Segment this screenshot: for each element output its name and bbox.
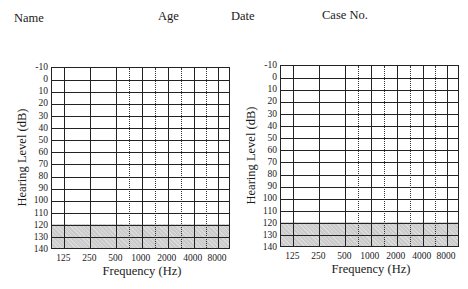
y-tick-label: 130 [251, 230, 277, 240]
grid-hline [52, 213, 229, 214]
grid-vline [142, 68, 143, 248]
grid-vline [447, 66, 448, 246]
x-axis-title: Frequency (Hz) [72, 264, 212, 279]
grid-vline [64, 68, 65, 248]
grid-vline [371, 66, 372, 246]
grid-vline-dotted [410, 66, 411, 246]
grid-hline [52, 237, 229, 238]
y-tick-label: 120 [251, 218, 277, 228]
case-number-label: Case No. [322, 8, 368, 23]
grid-vline [90, 68, 91, 248]
y-axis-title: Hearing Level (dB) [244, 96, 259, 216]
x-tick-label: 8000 [429, 251, 463, 261]
x-axis-title: Frequency (Hz) [301, 262, 441, 277]
grid-hline [52, 104, 229, 105]
grid-vline [116, 68, 117, 248]
audiogram-grid[interactable] [51, 67, 230, 249]
grid-hline [281, 187, 458, 188]
grid-hline [281, 90, 458, 91]
grid-vline-dotted [384, 66, 385, 246]
y-tick-label: 0 [251, 72, 277, 82]
grid-vline [397, 66, 398, 246]
grid-vline-dotted [358, 66, 359, 246]
grid-vline [168, 68, 169, 248]
grid-vline-dotted [181, 68, 182, 248]
y-tick-label: -10 [251, 60, 277, 70]
y-tick-label: 10 [251, 84, 277, 94]
grid-vline-dotted [155, 68, 156, 248]
grid-hline [52, 189, 229, 190]
grid-hline [52, 140, 229, 141]
grid-hline [52, 152, 229, 153]
grid-vline [194, 68, 195, 248]
date-label: Date [231, 9, 255, 24]
grid-hline [281, 235, 458, 236]
grid-hline [281, 162, 458, 163]
grid-hline [281, 138, 458, 139]
grid-hline [281, 199, 458, 200]
shaded-region [281, 222, 458, 246]
grid-vline [218, 68, 219, 248]
grid-hline [281, 211, 458, 212]
grid-vline [423, 66, 424, 246]
grid-hline [52, 201, 229, 202]
shaded-region [52, 224, 229, 248]
y-tick-label: 140 [251, 242, 277, 252]
name-label: Name [14, 11, 44, 26]
y-tick-label: 10 [22, 86, 48, 96]
grid-hline [52, 164, 229, 165]
grid-vline-dotted [435, 66, 436, 246]
grid-hline [52, 116, 229, 117]
y-tick-label: 0 [22, 74, 48, 84]
y-tick-label: 120 [22, 220, 48, 230]
grid-vline [319, 66, 320, 246]
grid-hline [281, 78, 458, 79]
grid-hline [52, 225, 229, 226]
grid-hline [281, 223, 458, 224]
grid-hline [52, 80, 229, 81]
grid-hline [281, 102, 458, 103]
grid-hline [281, 150, 458, 151]
grid-vline [293, 66, 294, 246]
grid-hline [52, 177, 229, 178]
grid-hline [281, 114, 458, 115]
x-tick-label: 8000 [200, 253, 234, 263]
grid-hline [52, 128, 229, 129]
grid-hline [281, 175, 458, 176]
y-axis-title: Hearing Level (dB) [15, 98, 30, 218]
grid-vline-dotted [129, 68, 130, 248]
y-tick-label: 130 [22, 232, 48, 242]
grid-vline [345, 66, 346, 246]
grid-vline-dotted [206, 68, 207, 248]
y-tick-label: -10 [22, 62, 48, 72]
grid-hline [52, 92, 229, 93]
audiogram-grid[interactable] [280, 65, 459, 247]
y-tick-label: 140 [22, 244, 48, 254]
grid-hline [281, 126, 458, 127]
age-label: Age [158, 9, 179, 24]
